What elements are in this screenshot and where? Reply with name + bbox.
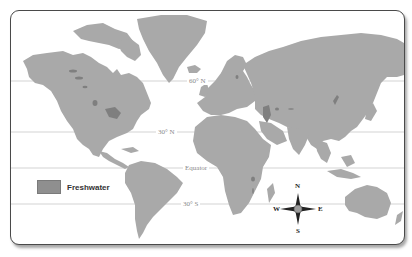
southeast-asia: [315, 139, 331, 163]
lake-ladoga: [236, 75, 239, 79]
map-frame: 60° N 30° N Equator 30° S Freshwater N S…: [10, 10, 405, 245]
latitude-label-30s: 30° S: [181, 200, 200, 208]
caribbean: [121, 147, 139, 153]
lake-athabasca: [83, 86, 88, 88]
freshwater-swatch: [37, 180, 61, 194]
great-slave-lake: [75, 77, 83, 80]
compass-rose-icon: [280, 193, 316, 225]
latitude-label-equator: Equator: [183, 164, 209, 172]
latitude-label-60n: 60° N: [187, 77, 208, 85]
great-bear-lake: [69, 70, 77, 73]
iceland: [187, 65, 201, 73]
indonesia: [327, 169, 361, 179]
lake-balkhash: [288, 108, 294, 110]
compass-west-label: W: [273, 206, 280, 213]
compass-north-label: N: [295, 183, 300, 190]
new-zealand: [395, 211, 403, 225]
latitude-label-30n: 30° N: [156, 128, 177, 136]
borneo: [341, 155, 355, 167]
lake-tanganyika: [252, 188, 254, 194]
map-legend: Freshwater: [37, 180, 110, 194]
central-america: [99, 151, 129, 169]
south-america: [125, 161, 183, 239]
world-map: [11, 11, 404, 244]
compass-east-label: E: [318, 206, 323, 213]
baffin-island: [117, 39, 141, 61]
lake-victoria: [251, 177, 255, 182]
madagascar: [267, 183, 275, 203]
compass-south-label: S: [296, 228, 300, 235]
australia: [345, 185, 391, 219]
lake-winnipeg: [93, 100, 98, 106]
landmasses: [23, 15, 404, 239]
north-america: [23, 51, 151, 157]
aral-sea: [275, 108, 279, 111]
legend-label-freshwater: Freshwater: [67, 183, 110, 192]
